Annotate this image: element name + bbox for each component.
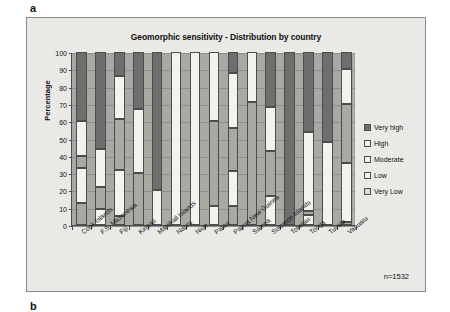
bar-segment (76, 121, 87, 156)
legend-item[interactable]: Very Low (364, 187, 424, 196)
chart-title: Geomorphic sensitivity - Distribution by… (27, 32, 425, 42)
y-tick-label: 90 (45, 67, 67, 74)
legend-label: Moderate (374, 156, 404, 163)
legend-label: Very Low (374, 188, 403, 195)
y-tick-label: 80 (45, 84, 67, 91)
bar-tokelau[interactable] (284, 52, 295, 225)
bar-segment (76, 203, 87, 225)
y-tick-mark (69, 157, 72, 158)
y-tick-mark (69, 70, 72, 71)
legend-label: Very high (374, 124, 403, 131)
bar-segment (228, 52, 239, 73)
sample-size-note: n=1532 (384, 272, 409, 281)
bar-fiji[interactable] (114, 52, 125, 225)
bar-segment (114, 76, 125, 119)
legend-swatch-icon (364, 140, 371, 147)
bar-segment (76, 156, 87, 168)
y-tick-label: 60 (45, 119, 67, 126)
y-tick-mark (69, 88, 72, 89)
bar-segment (341, 69, 352, 104)
bar-segment (341, 163, 352, 222)
bar-segment (265, 151, 276, 196)
bar-segment (209, 121, 220, 206)
y-tick-mark (69, 122, 72, 123)
legend-swatch-icon (364, 156, 371, 163)
panel-a-label: a (30, 2, 36, 14)
legend-swatch-icon (364, 172, 371, 179)
bar-segment (247, 102, 258, 225)
legend-label: Low (374, 172, 387, 179)
plot-area (71, 53, 355, 226)
bar-marshall-islands[interactable] (152, 52, 163, 225)
bar-segment (209, 206, 220, 225)
bar-nauru[interactable] (171, 52, 182, 225)
bar-papua-new-guinea[interactable] (228, 52, 239, 225)
bar-kiribati[interactable] (133, 52, 144, 225)
bar-segment (284, 52, 295, 225)
bar-vanuatu[interactable] (341, 52, 352, 225)
bar-segment (95, 52, 106, 149)
bar-segment (76, 52, 87, 121)
y-tick-label: 70 (45, 101, 67, 108)
bar-segment (247, 52, 258, 102)
y-tick-label: 40 (45, 153, 67, 160)
legend-swatch-icon (364, 124, 371, 131)
bar-palau[interactable] (209, 52, 220, 225)
bar-segment (133, 109, 144, 173)
legend-item[interactable]: High (364, 139, 424, 148)
bar-segment (228, 73, 239, 128)
y-tick-mark (69, 209, 72, 210)
bar-segment (95, 149, 106, 187)
chart-legend: Very highHighModerateLowVery Low (364, 123, 424, 203)
y-tick-label: 100 (45, 50, 67, 57)
bar-segment (322, 142, 333, 225)
bar-segment (228, 128, 239, 171)
bar-samoa[interactable] (247, 52, 258, 225)
bar-tuvalu[interactable] (322, 52, 333, 225)
legend-item[interactable]: Low (364, 171, 424, 180)
bar-segment (171, 52, 182, 225)
y-tick-mark (69, 53, 72, 54)
legend-swatch-icon (364, 188, 371, 195)
bar-segment (95, 187, 106, 209)
y-tick-label: 20 (45, 188, 67, 195)
bar-segment (341, 52, 352, 69)
bar-segment (209, 52, 220, 121)
bar-segment (265, 107, 276, 150)
y-tick-label: 30 (45, 171, 67, 178)
legend-item[interactable]: Moderate (364, 155, 424, 164)
bar-segment (228, 171, 239, 206)
bar-segment (341, 104, 352, 163)
bar-segment (133, 52, 144, 109)
y-tick-mark (69, 191, 72, 192)
bar-segment (133, 173, 144, 225)
panel-b-label: b (30, 300, 37, 312)
y-tick-mark (69, 105, 72, 106)
bar-segment (76, 168, 87, 203)
x-axis-tick-labels: Cook IslandsF.S. MicronesiaFijiKiribatiM… (71, 228, 371, 292)
y-tick-mark (69, 174, 72, 175)
bar-segment (152, 52, 163, 190)
y-tick-label: 50 (45, 136, 67, 143)
bar-segment (322, 52, 333, 142)
y-tick-label: 0 (45, 223, 67, 230)
bar-cook-islands[interactable] (76, 52, 87, 225)
bar-f-s-micronesia[interactable] (95, 52, 106, 225)
bar-segment (114, 52, 125, 76)
bar-segment (303, 52, 314, 132)
y-axis-tick-labels: 0102030405060708090100 (41, 53, 67, 225)
bar-segment (265, 52, 276, 107)
legend-item[interactable]: Very high (364, 123, 424, 132)
y-tick-mark (69, 140, 72, 141)
legend-label: High (374, 140, 388, 147)
y-tick-label: 10 (45, 205, 67, 212)
figure-panel-a: Geomorphic sensitivity - Distribution by… (26, 17, 426, 292)
bar-segment (114, 119, 125, 169)
